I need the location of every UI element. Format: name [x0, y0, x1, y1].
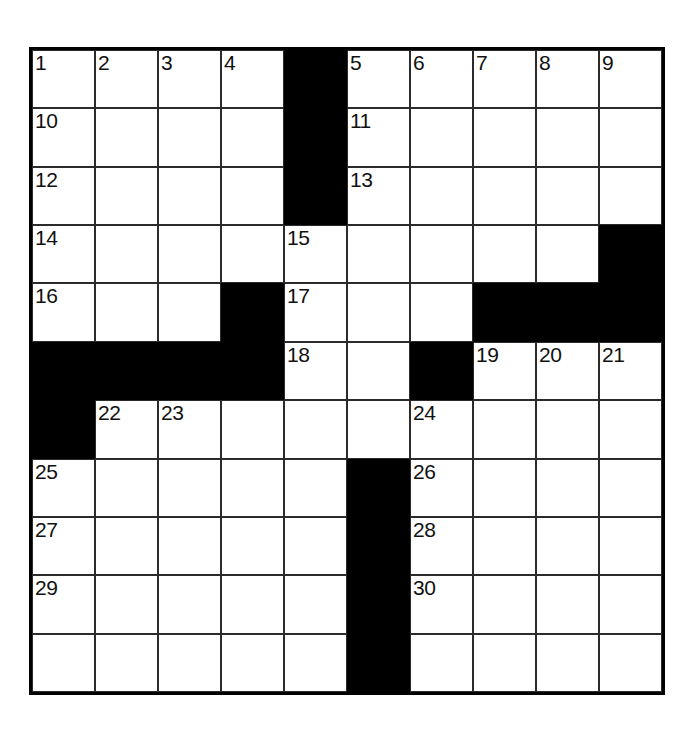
crossword-cell[interactable]	[284, 400, 347, 458]
crossword-cell[interactable]: 6	[410, 50, 473, 108]
crossword-cell[interactable]	[95, 225, 158, 283]
crossword-cell[interactable]	[221, 225, 284, 283]
crossword-cell[interactable]: 16	[32, 283, 95, 341]
crossword-cell[interactable]: 29	[32, 575, 95, 633]
crossword-cell[interactable]	[536, 167, 599, 225]
crossword-cell[interactable]: 21	[599, 342, 662, 400]
crossword-cell[interactable]	[95, 108, 158, 166]
crossword-cell[interactable]: 3	[158, 50, 221, 108]
crossword-cell[interactable]	[32, 634, 95, 692]
crossword-cell[interactable]	[95, 517, 158, 575]
crossword-cell[interactable]	[536, 108, 599, 166]
crossword-cell[interactable]	[536, 400, 599, 458]
crossword-cell[interactable]: 14	[32, 225, 95, 283]
crossword-cell[interactable]	[284, 575, 347, 633]
crossword-cell[interactable]: 18	[284, 342, 347, 400]
crossword-cell[interactable]: 15	[284, 225, 347, 283]
crossword-cell[interactable]: 13	[347, 167, 410, 225]
crossword-cell[interactable]	[473, 634, 536, 692]
crossword-cell[interactable]	[221, 167, 284, 225]
crossword-cell[interactable]	[347, 342, 410, 400]
crossword-cell[interactable]	[95, 167, 158, 225]
crossword-cell[interactable]	[221, 400, 284, 458]
crossword-cell[interactable]: 28	[410, 517, 473, 575]
crossword-cell[interactable]	[473, 108, 536, 166]
crossword-cell[interactable]	[221, 459, 284, 517]
crossword-cell[interactable]: 2	[95, 50, 158, 108]
crossword-grid[interactable]: 1234567891011121314151617181920212223242…	[32, 50, 662, 692]
crossword-cell[interactable]	[536, 575, 599, 633]
crossword-cell[interactable]: 25	[32, 459, 95, 517]
crossword-cell[interactable]: 4	[221, 50, 284, 108]
crossword-cell[interactable]	[158, 459, 221, 517]
crossword-cell[interactable]	[473, 517, 536, 575]
crossword-block-cell	[221, 342, 284, 400]
crossword-cell[interactable]	[284, 517, 347, 575]
crossword-cell[interactable]: 22	[95, 400, 158, 458]
crossword-cell[interactable]	[410, 167, 473, 225]
crossword-block-cell	[599, 225, 662, 283]
crossword-cell[interactable]	[473, 575, 536, 633]
crossword-cell[interactable]: 8	[536, 50, 599, 108]
crossword-cell[interactable]: 26	[410, 459, 473, 517]
crossword-cell[interactable]: 27	[32, 517, 95, 575]
crossword-cell[interactable]	[221, 575, 284, 633]
crossword-cell[interactable]: 12	[32, 167, 95, 225]
crossword-cell[interactable]	[221, 634, 284, 692]
crossword-cell[interactable]	[536, 459, 599, 517]
crossword-cell[interactable]	[158, 108, 221, 166]
crossword-cell[interactable]: 20	[536, 342, 599, 400]
crossword-cell[interactable]: 19	[473, 342, 536, 400]
cell-number: 3	[161, 50, 172, 75]
crossword-cell[interactable]	[221, 108, 284, 166]
crossword-cell[interactable]	[347, 400, 410, 458]
crossword-cell[interactable]	[95, 575, 158, 633]
crossword-cell[interactable]	[473, 459, 536, 517]
crossword-cell[interactable]	[599, 575, 662, 633]
crossword-cell[interactable]	[599, 517, 662, 575]
crossword-cell[interactable]	[473, 167, 536, 225]
crossword-cell[interactable]: 23	[158, 400, 221, 458]
cell-number: 11	[350, 108, 371, 133]
crossword-cell[interactable]	[221, 517, 284, 575]
crossword-cell[interactable]	[536, 634, 599, 692]
crossword-cell[interactable]	[158, 225, 221, 283]
crossword-cell[interactable]	[599, 400, 662, 458]
cell-number: 12	[35, 167, 57, 192]
crossword-cell[interactable]	[599, 167, 662, 225]
crossword-cell[interactable]	[284, 459, 347, 517]
crossword-cell[interactable]: 11	[347, 108, 410, 166]
crossword-cell[interactable]	[158, 575, 221, 633]
crossword-cell[interactable]	[410, 634, 473, 692]
crossword-cell[interactable]	[158, 517, 221, 575]
crossword-cell[interactable]	[95, 459, 158, 517]
crossword-cell[interactable]: 5	[347, 50, 410, 108]
crossword-cell[interactable]: 1	[32, 50, 95, 108]
crossword-cell[interactable]	[536, 517, 599, 575]
crossword-cell[interactable]	[347, 225, 410, 283]
crossword-cell[interactable]	[473, 400, 536, 458]
crossword-cell[interactable]	[473, 225, 536, 283]
crossword-cell[interactable]: 17	[284, 283, 347, 341]
crossword-cell[interactable]: 7	[473, 50, 536, 108]
crossword-cell[interactable]	[599, 459, 662, 517]
crossword-cell[interactable]	[599, 108, 662, 166]
crossword-cell[interactable]	[158, 634, 221, 692]
crossword-cell[interactable]	[95, 283, 158, 341]
crossword-cell[interactable]	[410, 283, 473, 341]
crossword-cell[interactable]: 10	[32, 108, 95, 166]
crossword-cell[interactable]	[599, 634, 662, 692]
crossword-cell[interactable]: 9	[599, 50, 662, 108]
crossword-cell[interactable]	[95, 634, 158, 692]
cell-number: 8	[539, 50, 550, 75]
crossword-cell[interactable]	[158, 283, 221, 341]
crossword-cell[interactable]	[284, 634, 347, 692]
crossword-cell[interactable]	[410, 108, 473, 166]
crossword-cell[interactable]: 24	[410, 400, 473, 458]
crossword-block-cell	[32, 400, 95, 458]
crossword-cell[interactable]	[410, 225, 473, 283]
crossword-cell[interactable]	[158, 167, 221, 225]
crossword-cell[interactable]	[347, 283, 410, 341]
crossword-cell[interactable]	[536, 225, 599, 283]
crossword-cell[interactable]: 30	[410, 575, 473, 633]
